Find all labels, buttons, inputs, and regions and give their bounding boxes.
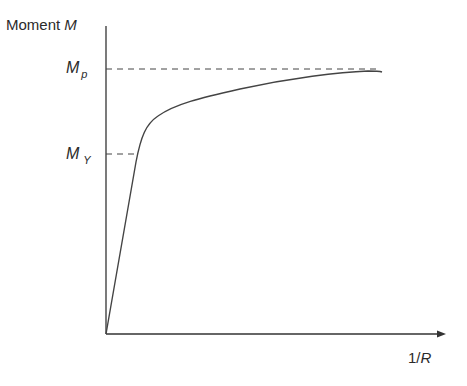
- x-axis-label-symbol: R: [421, 349, 432, 366]
- x-axis-label: 1/R: [408, 349, 431, 366]
- moment-curvature-curve: [106, 71, 382, 334]
- my-label-main: M: [66, 145, 79, 162]
- y-axis-label: Moment M: [6, 16, 77, 33]
- my-label: MY: [66, 145, 91, 163]
- moment-curvature-diagram: [0, 0, 467, 386]
- x-axis-arrowhead-icon: [437, 331, 446, 338]
- my-label-subscript: Y: [83, 154, 90, 166]
- mp-label-main: M: [66, 59, 79, 76]
- y-axis-label-symbol: M: [64, 16, 77, 33]
- y-axis-label-word: Moment: [6, 16, 64, 33]
- x-axis-label-prefix: 1/: [408, 349, 421, 366]
- mp-label-subscript: p: [81, 68, 87, 80]
- mp-label: Mp: [66, 59, 87, 77]
